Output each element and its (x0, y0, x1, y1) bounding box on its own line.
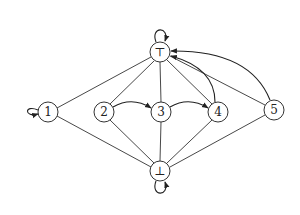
lattice-diagram: ⊤ 1 2 3 4 5 ⊥ (0, 0, 300, 215)
node-label: ⊥ (154, 164, 165, 178)
node-3: 3 (151, 102, 171, 122)
node-2: 2 (94, 102, 114, 122)
node-label: 4 (214, 105, 222, 119)
arcs (113, 51, 270, 108)
node-label: 5 (270, 103, 278, 117)
node-4: 4 (208, 102, 228, 122)
node-top: ⊤ (150, 42, 170, 62)
node-bottom: ⊥ (150, 161, 170, 181)
node-5: 5 (264, 100, 284, 120)
loop-1 (28, 108, 39, 114)
edge-top-5 (170, 56, 265, 105)
node-1: 1 (38, 102, 58, 122)
node-label: 1 (44, 105, 52, 119)
arc-3-4 (170, 102, 208, 108)
arc-5-top (171, 51, 270, 100)
node-label: 2 (100, 105, 108, 119)
arc-4-top (171, 56, 215, 102)
edge-bot-3 (160, 122, 161, 161)
node-label: 3 (157, 105, 165, 119)
arc-2-3 (113, 102, 151, 108)
loop-top (155, 30, 166, 42)
edge-top-3 (160, 62, 161, 102)
edge-top-4 (167, 60, 212, 104)
edge-bot-5 (170, 115, 265, 167)
node-label: ⊤ (154, 45, 165, 59)
edge-bot-1 (57, 116, 151, 167)
loop-bot (155, 181, 166, 193)
edge-top-1 (57, 57, 151, 108)
